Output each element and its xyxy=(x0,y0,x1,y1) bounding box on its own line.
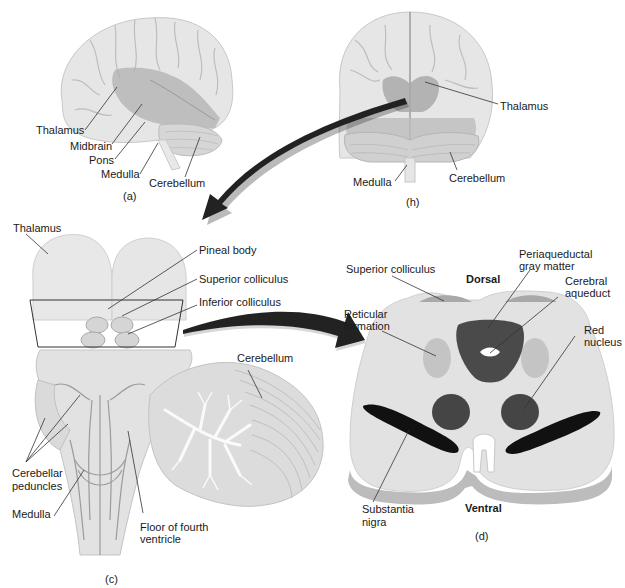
label-red-nucleus-line2: nucleus xyxy=(584,336,622,348)
label-thalamus-c: Thalamus xyxy=(13,222,61,234)
label-thalamus-h: Thalamus xyxy=(500,100,548,112)
label-thalamus-a: Thalamus xyxy=(36,124,84,136)
label-medulla-a: Medulla xyxy=(101,168,140,180)
label-cerebellum-a: Cerebellum xyxy=(149,177,205,189)
label-red-nucleus-line1: Red xyxy=(584,324,604,336)
caption-c: (c) xyxy=(105,573,118,585)
caption-a: (a) xyxy=(123,190,136,202)
label-cerebral-aqueduct-line2: aqueduct xyxy=(565,287,610,299)
label-superior-colliculus-d: Superior colliculus xyxy=(346,263,435,275)
label-periaqueductal-line1: Periaqueductal xyxy=(519,248,592,260)
label-substantia-nigra-line2: nigra xyxy=(362,516,386,528)
label-cerebellar-peduncles-line2: peduncles xyxy=(12,480,62,492)
label-pineal-body: Pineal body xyxy=(199,244,257,256)
label-periaqueductal-line2: gray matter xyxy=(519,260,575,272)
label-pons-a: Pons xyxy=(89,154,114,166)
arrow-c-to-d xyxy=(183,312,366,351)
label-cerebral-aqueduct-line1: Cerebral xyxy=(565,275,607,287)
label-dorsal: Dorsal xyxy=(466,273,500,285)
figure-artwork xyxy=(0,0,625,588)
label-cerebellar-peduncles-line1: Cerebellar xyxy=(12,467,63,479)
label-cerebellum-h: Cerebellum xyxy=(449,172,505,184)
label-medulla-h: Medulla xyxy=(353,176,392,188)
label-midbrain-a: Midbrain xyxy=(70,140,112,152)
label-inferior-colliculus: Inferior colliculus xyxy=(199,296,281,308)
caption-d: (d) xyxy=(475,530,488,542)
label-cerebellum-c: Cerebellum xyxy=(237,352,293,364)
caption-h: (h) xyxy=(406,196,419,208)
label-ventral: Ventral xyxy=(465,502,502,514)
label-floor-fourth-ventricle-line2: ventricle xyxy=(140,533,181,545)
label-floor-fourth-ventricle-line1: Floor of fourth xyxy=(140,521,208,533)
label-reticular-line1: Reticular xyxy=(344,308,387,320)
label-substantia-nigra-line1: Substantia xyxy=(362,503,414,515)
brain-posterior-illustration xyxy=(339,12,492,182)
label-medulla-c: Medulla xyxy=(12,508,51,520)
label-superior-colliculus-c: Superior colliculus xyxy=(199,273,288,285)
label-reticular-line2: formation xyxy=(344,320,390,332)
